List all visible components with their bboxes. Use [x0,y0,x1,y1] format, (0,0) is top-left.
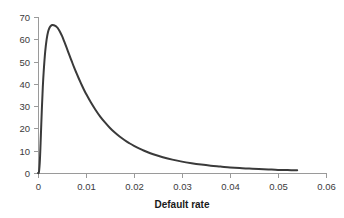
data-series-line [38,25,297,173]
x-tick-label: 0.05 [269,181,288,192]
x-tick-label: 0 [36,181,41,192]
y-tick-label: 60 [19,34,30,45]
y-tick-label: 10 [19,146,30,157]
x-tick-label: 0.04 [221,181,240,192]
x-tick-label: 0.06 [317,181,336,192]
x-tick-label: 0.03 [173,181,192,192]
y-axis-tick-labels: 010203040506070 [19,12,30,179]
x-axis-title: Default rate [154,199,209,210]
chart-container: 010203040506070 00.010.020.030.040.050.0… [0,0,344,218]
y-tick-label: 20 [19,123,30,134]
x-axis-tick-labels: 00.010.020.030.040.050.06 [36,181,336,192]
x-tick-label: 0.02 [125,181,144,192]
y-tick-label: 50 [19,57,30,68]
chart-plot: 010203040506070 00.010.020.030.040.050.0… [0,0,344,218]
y-axis-tick-marks [34,18,38,174]
x-tick-label: 0.01 [77,181,96,192]
y-tick-label: 0 [25,168,30,179]
y-tick-label: 30 [19,101,30,112]
y-tick-label: 70 [19,12,30,23]
y-tick-label: 40 [19,79,30,90]
